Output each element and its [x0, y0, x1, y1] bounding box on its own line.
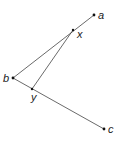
label-x: x [76, 28, 83, 40]
point-c [103, 128, 106, 131]
geometry-diagram: a x b y c [0, 0, 116, 141]
point-y [31, 88, 33, 90]
label-b: b [3, 72, 9, 84]
label-c: c [108, 123, 114, 135]
point-x [72, 29, 74, 31]
label-a: a [98, 9, 104, 21]
label-y: y [30, 91, 38, 103]
segment-b-c [13, 78, 104, 129]
point-b [12, 77, 15, 80]
segment-a-b [13, 15, 94, 78]
segment-x-y [32, 30, 73, 89]
point-a [93, 14, 96, 17]
